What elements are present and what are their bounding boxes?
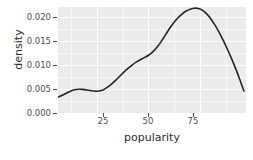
x-tick-label-50: 50: [143, 117, 154, 126]
y-tick-label-0.005: 0.005: [27, 85, 51, 94]
density-curve: [58, 7, 246, 113]
y-tick-label-0.015: 0.015: [27, 37, 51, 46]
x-tick-label-75: 75: [188, 117, 199, 126]
y-tick-mark: [53, 65, 57, 66]
y-tick-mark: [53, 17, 57, 18]
x-axis-title: popularity: [58, 131, 246, 144]
density-plot: density 0.020 0.015 0.010 0.005 0.000 25…: [0, 0, 253, 160]
y-tick-label-0.020: 0.020: [27, 13, 51, 22]
y-tick-mark: [53, 89, 57, 90]
x-tick-label-25: 25: [98, 117, 109, 126]
y-axis-title: density: [12, 10, 25, 90]
y-tick-label-0.010: 0.010: [27, 61, 51, 70]
y-tick-label-0.000: 0.000: [27, 109, 51, 118]
density-line: [58, 8, 244, 97]
y-tick-mark: [53, 41, 57, 42]
plot-panel: [58, 7, 246, 113]
y-tick-mark: [53, 113, 57, 114]
